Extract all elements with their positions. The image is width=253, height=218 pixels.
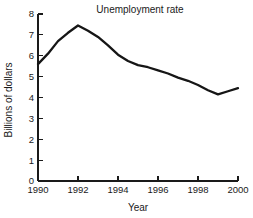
x-tick-label: 1996: [147, 184, 168, 195]
x-tick-label: 1990: [27, 184, 48, 195]
x-tick-label: 1992: [67, 184, 88, 195]
y-tick-label: 4: [29, 92, 34, 103]
y-tick-label: 2: [29, 134, 34, 145]
y-tick-label: 5: [29, 71, 34, 82]
y-tick-label: 1: [29, 155, 34, 166]
unemployment-rate-line-chart: 012345678 199019921994199619982000 Unemp…: [0, 0, 253, 218]
x-tick-label: 1998: [187, 184, 208, 195]
chart-title: Unemployment rate: [96, 4, 184, 15]
y-tick-label: 6: [29, 50, 34, 61]
chart-container: 012345678 199019921994199619982000 Unemp…: [0, 0, 253, 218]
y-tick-label: 7: [29, 29, 34, 40]
y-tick-label: 3: [29, 113, 34, 124]
y-axis-title: Billions of dollars: [3, 62, 14, 137]
y-axis-tick-labels: 012345678: [29, 8, 34, 186]
x-tick-label: 2000: [227, 184, 248, 195]
y-tick-label: 8: [29, 8, 34, 19]
x-tick-label: 1994: [107, 184, 128, 195]
x-axis-title: Year: [128, 202, 149, 213]
